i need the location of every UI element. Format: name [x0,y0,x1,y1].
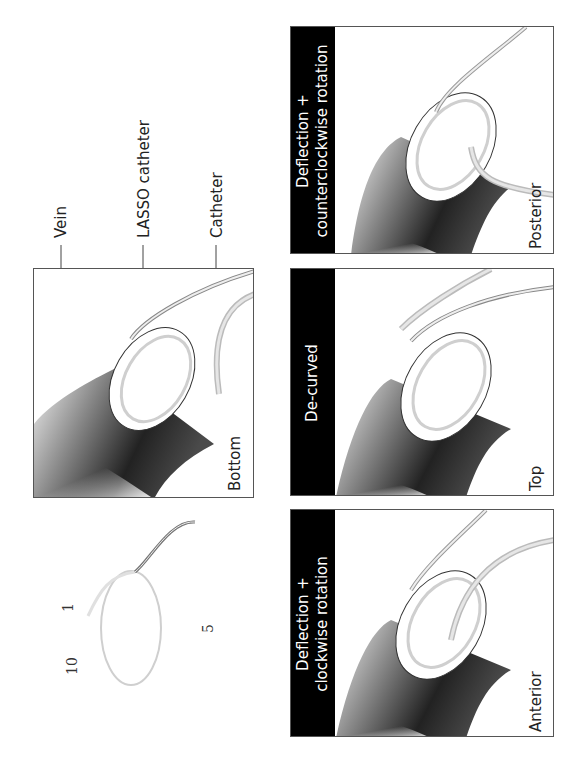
view-label-top: Top [527,466,545,491]
panel-title-top: De-curved [303,275,322,491]
panel-title-posterior: Deflection + counterclockwise rotation [294,33,332,249]
panel-top: De-curved Top [290,268,554,496]
panel-title-posterior-line1: Deflection + [294,33,313,249]
panel-title-anterior: Deflection + clockwise rotation [294,516,332,732]
panel-anterior: Deflection + clockwise rotation Anterior [290,509,554,737]
panel-posterior: Deflection + counterclockwise rotation P… [290,26,554,254]
lasso-stem [88,572,135,616]
electrode-number-10: 10 [64,657,80,675]
lasso-ring [101,571,161,685]
electrode-number-1: 1 [60,603,76,612]
lasso-proximal [135,522,195,572]
view-label-anterior: Anterior [527,671,545,732]
panel-title-anterior-line2: clockwise rotation [313,516,332,732]
panel-title-top-line1: De-curved [303,275,322,491]
view-label-posterior: Posterior [527,183,545,249]
electrode-number-5: 5 [200,624,216,633]
panel-title-posterior-line2: counterclockwise rotation [313,33,332,249]
panel-title-anterior-line1: Deflection + [294,516,313,732]
